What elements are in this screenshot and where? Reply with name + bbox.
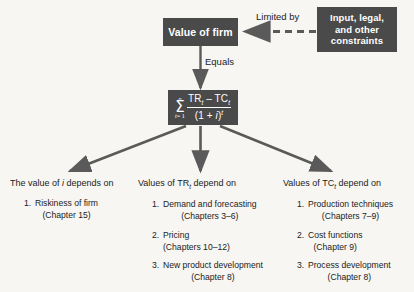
list-item-number: 1. (24, 198, 35, 221)
denominator-exponent: t (221, 109, 223, 116)
denominator-open: (1 + (195, 111, 216, 122)
list-item-text: Riskiness of firm (35, 198, 98, 209)
list-item-number: 2. (297, 230, 308, 253)
column-heading-i: The value of i depends on (10, 178, 114, 190)
list-item-number: 3. (297, 260, 308, 283)
diagram-canvas: Value of firm Input, legal, and other co… (0, 0, 414, 292)
numerator-tr: TR (188, 93, 202, 104)
list-item-text: Pricing (163, 230, 230, 241)
summation-lower-value: = 1 (177, 113, 185, 119)
formula-fraction: TRt – TCt (1 + i)t (187, 93, 231, 122)
heading-tc-pre: Values of TC (283, 178, 334, 188)
list-item-text: New product development (163, 260, 263, 271)
list-item: 1. Production techniques (Chapters 7–9) (297, 199, 393, 222)
summation-operator: n Σ t= 1 (175, 96, 185, 120)
column-value-of-i: The value of i depends on 1. Riskiness o… (10, 178, 114, 228)
heading-tr-post: depend on (191, 178, 236, 188)
formula-denominator: (1 + i)t (195, 108, 223, 122)
constraints-line-2: and other (335, 24, 379, 36)
summation-lower-limit: t= 1 (175, 113, 185, 119)
list-item-body: Demand and forecasting (Chapters 3–6) (163, 199, 257, 222)
list-item-number: 1. (152, 199, 163, 222)
heading-i-pre: The value of (10, 178, 62, 188)
list-item-text: Cost functions (308, 230, 362, 241)
arrow-branch-left (70, 126, 186, 171)
list-item-chapter: (Chapters 3–6) (163, 211, 257, 222)
edge-label-limited-by: Limited by (256, 11, 299, 22)
list-item-body: Riskiness of firm (Chapter 15) (35, 198, 98, 221)
constraints-line-1: Input, legal, (330, 12, 384, 24)
numerator-minus-tc: – TC (203, 93, 228, 104)
list-item: 1. Riskiness of firm (Chapter 15) (24, 198, 114, 221)
list-item: 2. Cost functions (Chapter 9) (297, 230, 393, 253)
list-item-number: 1. (297, 199, 308, 222)
arrow-branch-right (220, 126, 331, 171)
constraints-line-3: constraints (331, 35, 383, 47)
list-item-text: Demand and forecasting (163, 199, 257, 210)
node-constraints: Input, legal, and other constraints (317, 7, 397, 52)
column-values-of-tc: Values of TCt depend on 1. Production te… (283, 178, 393, 290)
sigma-icon: Σ (175, 101, 185, 114)
heading-tr-pre: Values of TR (138, 178, 189, 188)
list-item-text: Production techniques (308, 199, 393, 210)
edge-label-equals: Equals (205, 56, 234, 67)
list-item-body: Cost functions (Chapter 9) (308, 230, 362, 253)
formula-numerator: TRt – TCt (187, 93, 231, 108)
column-heading-tc: Values of TCt depend on (283, 178, 393, 191)
node-formula: n Σ t= 1 TRt – TCt (1 + i)t (168, 90, 238, 125)
list-item-body: Pricing (Chapters 10–12) (163, 230, 230, 253)
list-item-body: Production techniques (Chapters 7–9) (308, 199, 393, 222)
list-item: 3. Process development (Chapter 8) (297, 260, 393, 283)
list-item-chapter: (Chapter 8) (163, 272, 263, 283)
list-item-body: Process development (Chapter 8) (308, 260, 391, 283)
column-heading-tr: Values of TRt depend on (138, 178, 263, 191)
list-item-number: 2. (152, 230, 163, 253)
heading-i-post: depends on (64, 178, 114, 188)
node-value-of-firm-label: Value of firm (168, 26, 232, 39)
list-item-chapter: (Chapters 7–9) (308, 211, 393, 222)
list-item-chapter: (Chapter 15) (35, 210, 98, 221)
list-item: 1. Demand and forecasting (Chapters 3–6) (152, 199, 263, 222)
list-item-text: Process development (308, 260, 391, 271)
list-item-chapter: (Chapters 10–12) (163, 242, 230, 253)
list-item-body: New product development (Chapter 8) (163, 260, 263, 283)
numerator-tc-sub: t (228, 99, 230, 106)
list-item-chapter: (Chapter 9) (308, 242, 362, 253)
column-values-of-tr: Values of TRt depend on 1. Demand and fo… (138, 178, 263, 290)
list-item: 2. Pricing (Chapters 10–12) (152, 230, 263, 253)
list-item: 3. New product development (Chapter 8) (152, 260, 263, 283)
heading-tc-post: depend on (336, 178, 381, 188)
list-item-number: 3. (152, 260, 163, 283)
list-item-chapter: (Chapter 8) (308, 272, 391, 283)
formula-expression: n Σ t= 1 TRt – TCt (1 + i)t (175, 93, 231, 122)
node-value-of-firm: Value of firm (163, 18, 238, 46)
